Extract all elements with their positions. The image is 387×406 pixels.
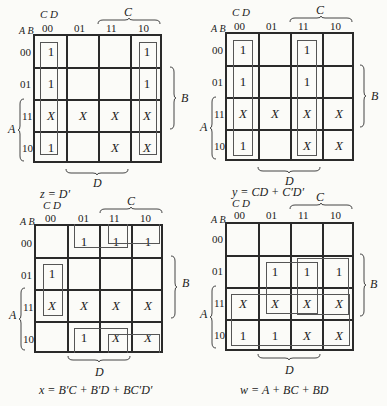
col-header-00: 00 (234, 210, 245, 221)
cd-label: C D (232, 7, 250, 18)
col-header-01: 01 (266, 210, 277, 221)
brace-b (359, 64, 367, 128)
col-header-00: 00 (234, 21, 245, 32)
var-b-label: B (370, 279, 377, 290)
cell-r3-c1 (259, 130, 291, 162)
cell-r1-c1 (259, 66, 291, 98)
kmap-w: C D A B 00 01 11 10 00 01 11 10 C B A D … (192, 189, 387, 406)
var-b-label: B (181, 93, 188, 104)
brace-c (99, 207, 163, 215)
cd-label: C D (232, 198, 250, 209)
cell-r3-c0 (36, 322, 68, 354)
brace-c (289, 16, 353, 24)
cell-r1-c0 (227, 256, 259, 288)
col-header-11: 11 (298, 210, 309, 221)
brace-a (209, 96, 217, 160)
brace-a (17, 98, 25, 162)
var-a-label: A (200, 309, 207, 320)
group-col00 (40, 42, 58, 155)
row-header-01: 01 (212, 77, 223, 88)
cell-r2-c1: X (259, 98, 291, 130)
cell-r0-c1 (259, 224, 291, 256)
col-header-00: 00 (42, 23, 53, 34)
equation-x: x = B′C + B′D + BC′D′ (39, 383, 152, 398)
brace-d (257, 353, 321, 361)
cell-r2-c1: X (67, 100, 99, 132)
var-a-label: A (200, 122, 207, 133)
cell-r0-c2 (99, 36, 131, 68)
ab-label: A B (19, 25, 34, 36)
brace-a (209, 285, 217, 349)
group-b-cprime-dprime (43, 264, 63, 316)
var-d-label: D (95, 367, 104, 378)
kmap-x: C D A B 00 01 11 10 00 01 11 10 C B A D … (1, 191, 196, 406)
ab-label: A B (211, 214, 226, 225)
var-a-label: A (8, 124, 15, 135)
var-b-label: B (182, 278, 189, 289)
group-col11 (297, 40, 317, 156)
col-header-01: 01 (266, 21, 277, 32)
brace-b (359, 253, 367, 317)
cell-r0-c1 (67, 36, 99, 68)
cell-r1-c2 (99, 68, 131, 100)
cell-r0-c1 (259, 34, 291, 66)
var-a-label: A (9, 310, 16, 321)
cell-r1-c2 (100, 258, 132, 290)
equation-w: w = A + BC + BD (240, 383, 329, 398)
cell-r3-c3: X (323, 130, 355, 162)
group-bprime-c-bottom (108, 334, 160, 353)
cell-r1-c1 (67, 68, 99, 100)
row-header-01: 01 (212, 266, 223, 277)
col-header-00: 00 (45, 213, 56, 224)
cell-r0-c0 (36, 226, 68, 258)
row-header-01: 01 (21, 270, 32, 281)
var-d-label: D (93, 178, 102, 189)
brace-b (169, 66, 177, 130)
cell-r1-c3 (132, 258, 164, 290)
row-header-00: 00 (212, 45, 223, 56)
cell-r0-c0 (227, 224, 259, 256)
brace-d (67, 355, 131, 363)
var-c-label: C (316, 5, 324, 16)
row-header-00: 00 (20, 47, 31, 58)
var-b-label: B (371, 91, 378, 102)
cell-r0-c3 (323, 224, 355, 256)
var-c-label: C (127, 196, 135, 207)
cell-r3-c1 (67, 132, 99, 164)
brace-c (97, 18, 161, 26)
col-header-01: 01 (74, 23, 85, 34)
var-c-label: C (124, 7, 132, 18)
brace-a (18, 287, 26, 351)
group-bprime-c-top (108, 224, 160, 244)
kmap-y: C D A B 00 01 11 10 00 01 11 10 C B A D … (192, 0, 387, 198)
cell-r0-c3 (323, 34, 355, 66)
group-col10 (139, 42, 157, 155)
row-header-01: 01 (20, 79, 31, 90)
cell-r1-c3 (323, 66, 355, 98)
cell-r1-c1 (68, 258, 100, 290)
cd-label: C D (43, 200, 61, 211)
col-header-01: 01 (78, 213, 89, 224)
kmap-grid: 1 1 1 X X X X 1 1 X X (225, 222, 354, 351)
ab-label: A B (20, 216, 35, 227)
kmap-grid: 1 1 1 1 X X X X 1 X X (225, 32, 354, 161)
cell-r3-c2: X (99, 132, 131, 164)
group-bc (297, 258, 349, 315)
brace-d (257, 166, 321, 174)
row-header-00: 00 (21, 238, 32, 249)
row-header-00: 00 (212, 234, 223, 245)
ab-label: A B (211, 23, 226, 34)
cell-r0-c2 (291, 224, 323, 256)
cell-r2-c2: X (100, 290, 132, 322)
cell-r2-c2: X (99, 100, 131, 132)
brace-d (65, 168, 129, 176)
kmap-grid: 1 1 1 1 X X X X 1 X X (34, 224, 163, 353)
brace-b (170, 255, 178, 319)
cell-r2-c3: X (323, 98, 355, 130)
var-d-label: D (285, 365, 294, 376)
kmap-grid: 1 1 1 1 X X X X 1 X X (33, 34, 162, 163)
group-col00 (233, 40, 253, 156)
col-header-10: 10 (330, 210, 341, 221)
brace-c (289, 203, 353, 211)
cell-r2-c3: X (132, 290, 164, 322)
